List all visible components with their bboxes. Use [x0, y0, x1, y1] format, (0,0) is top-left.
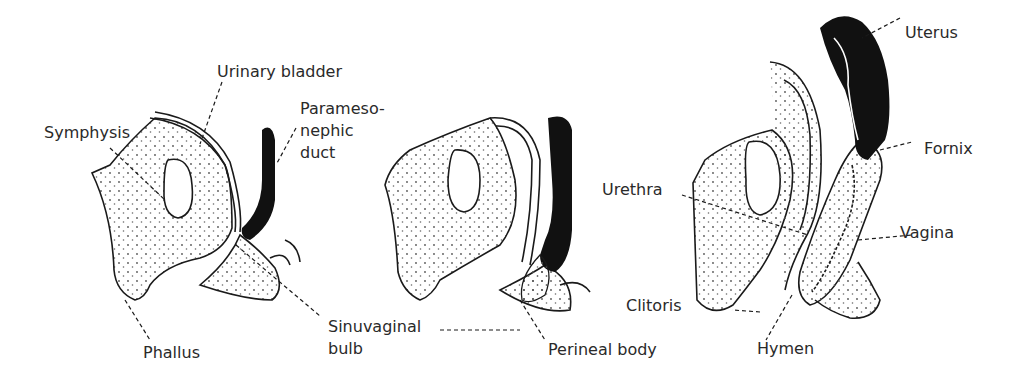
paramesonephric-duct	[242, 128, 275, 240]
label-paramesonephric-duct-3: duct	[300, 144, 335, 162]
body-outline	[92, 118, 232, 300]
label-clitoris: Clitoris	[626, 297, 681, 315]
label-vagina: Vagina	[900, 224, 954, 242]
label-urinary-bladder: Urinary bladder	[217, 63, 342, 81]
label-sinuvaginal-bulb-2: bulb	[328, 340, 363, 358]
symphysis-shape	[164, 159, 193, 218]
label-perineal-body: Perineal body	[548, 341, 657, 359]
body-outline	[385, 118, 516, 300]
label-sinuvaginal-bulb-1: Sinuvaginal	[328, 318, 421, 336]
label-paramesonephric-duct-2: nephic	[300, 122, 354, 140]
label-fornix: Fornix	[924, 140, 973, 158]
uterus	[820, 16, 889, 160]
sinuvaginal-bulb	[521, 255, 549, 302]
label-urethra: Urethra	[602, 181, 663, 199]
symphysis-shape	[448, 150, 480, 212]
label-phallus: Phallus	[143, 344, 200, 362]
diagram-artwork	[0, 0, 1016, 388]
label-paramesonephric-duct-1: Parameso-	[300, 100, 385, 118]
symphysis-shape	[745, 141, 780, 215]
label-hymen: Hymen	[757, 340, 814, 358]
label-uterus: Uterus	[905, 24, 958, 42]
paramesonephric-duct	[540, 117, 572, 273]
label-symphysis: Symphysis	[44, 124, 130, 142]
